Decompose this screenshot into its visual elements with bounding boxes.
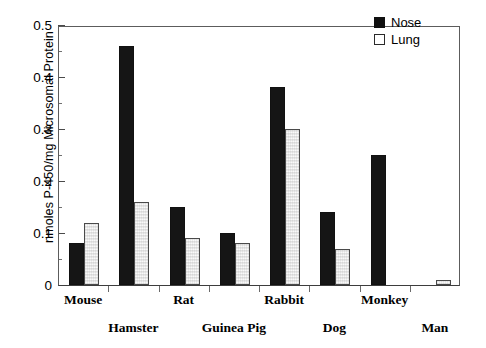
bars-layer <box>59 27 459 285</box>
legend-label: Nose <box>391 16 421 29</box>
bar-group <box>270 27 300 285</box>
x-axis-label-mouse: Mouse <box>64 292 102 308</box>
x-tick <box>309 286 310 292</box>
bar-lung-man <box>436 280 451 285</box>
bar-chart-figure: nmoles P-450/mg Microsomal Protein 00.10… <box>0 0 486 348</box>
x-tick <box>410 286 411 292</box>
bar-nose-guinea-pig <box>220 233 235 285</box>
bar-nose-rabbit <box>270 87 285 285</box>
bar-nose-mouse <box>69 243 84 285</box>
bar-lung-guinea-pig <box>235 243 250 285</box>
x-tick <box>159 286 160 292</box>
legend: NoseLung <box>374 14 421 48</box>
legend-item-nose: Nose <box>374 14 421 31</box>
legend-item-lung: Lung <box>374 31 421 48</box>
bar-lung-hamster <box>134 202 149 285</box>
x-tick <box>209 286 210 292</box>
x-axis-label-rat: Rat <box>173 292 194 308</box>
bar-nose-dog <box>320 212 335 285</box>
x-axis-label-hamster: Hamster <box>108 320 158 336</box>
bar-nose-rat <box>170 207 185 285</box>
bar-group <box>320 27 350 285</box>
bar-nose-monkey <box>371 155 386 285</box>
bar-lung-rat <box>185 238 200 285</box>
bar-lung-rabbit <box>285 129 300 285</box>
x-tick <box>259 286 260 292</box>
y-tick-label: 0.2 <box>6 175 52 189</box>
x-axis-label-guinea-pig: Guinea Pig <box>202 320 266 336</box>
x-tick <box>108 286 109 292</box>
legend-swatch-nose-icon <box>374 17 385 28</box>
x-axis-label-dog: Dog <box>323 320 346 336</box>
x-axis-label-rabbit: Rabbit <box>264 292 304 308</box>
legend-swatch-lung-icon <box>374 34 385 45</box>
y-tick-label: 0 <box>6 279 52 293</box>
bar-nose-hamster <box>119 46 134 285</box>
legend-label: Lung <box>391 33 420 46</box>
bar-group <box>69 27 99 285</box>
bar-lung-mouse <box>84 223 99 285</box>
plot-area <box>58 26 460 286</box>
bar-group <box>421 27 451 285</box>
x-axis-label-man: Man <box>421 320 448 336</box>
y-tick-label: 0.1 <box>6 227 52 241</box>
bar-group <box>119 27 149 285</box>
bar-group <box>371 27 401 285</box>
y-tick-label: 0.3 <box>6 123 52 137</box>
bar-group <box>220 27 250 285</box>
y-tick-label: 0.5 <box>6 19 52 33</box>
y-tick-label: 0.4 <box>6 71 52 85</box>
bar-lung-dog <box>335 249 350 285</box>
x-axis-label-monkey: Monkey <box>361 292 408 308</box>
bar-group <box>170 27 200 285</box>
